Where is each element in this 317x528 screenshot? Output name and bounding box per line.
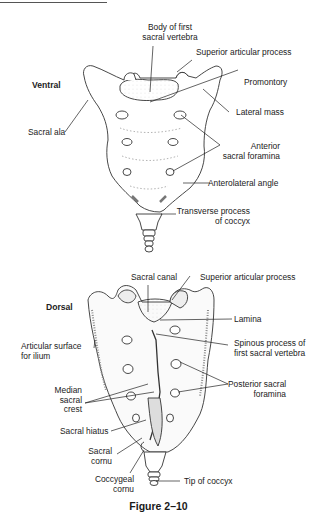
posterior-foramen — [122, 336, 132, 344]
ventral-coccyx — [136, 214, 162, 230]
label-line: first sacral vertebra — [234, 349, 305, 359]
label-ventral-superior-articular-process: Superior articular process — [196, 48, 291, 58]
coccyx-segment — [143, 230, 155, 236]
label-line: of coccyx — [176, 217, 250, 227]
posterior-foramen — [167, 414, 174, 422]
label-sacral-cornu: Sacral cornu — [80, 447, 112, 466]
posterior-foramen — [171, 389, 180, 397]
label-articular-surface-for-ilium: Articular surface for ilium — [21, 342, 82, 361]
label-line: cornu — [80, 457, 112, 467]
label-transverse-process-coccyx: Transverse process of coccyx — [176, 207, 250, 226]
label-lamina: Lamina — [234, 315, 261, 325]
label-anterolateral-angle: Anterolateral angle — [208, 179, 278, 189]
label-lateral-mass: Lateral mass — [236, 108, 284, 118]
label-dorsal-superior-articular-process: Superior articular process — [200, 273, 295, 283]
anterior-foramen — [168, 139, 178, 146]
dorsal-coccyx — [144, 452, 166, 472]
label-sacral-canal: Sacral canal — [131, 273, 177, 283]
label-sacral-hiatus: Sacral hiatus — [60, 427, 108, 437]
label-line: crest — [50, 405, 82, 415]
label-promontory: Promontory — [244, 78, 287, 88]
anterior-foramen — [116, 111, 128, 119]
posterior-foramen — [133, 414, 140, 422]
label-sacral-ala: Sacral ala — [28, 128, 65, 138]
anterior-foramen — [122, 139, 132, 146]
label-body-first-sacral-vertebra: Body of first sacral vertebra — [130, 23, 210, 42]
body-first-sacral-vertebra — [120, 79, 178, 100]
label-median-sacral-crest: Median sacral crest — [50, 386, 82, 415]
anterior-foramen — [166, 169, 174, 176]
anterior-foramen — [123, 169, 131, 176]
ventral-superior-articular-left — [124, 73, 136, 80]
label-tip-of-coccyx: Tip of coccyx — [184, 477, 233, 487]
coccyx-segment — [148, 472, 160, 477]
label-anterior-sacral-foramina: Anterior sacral foramina — [222, 142, 280, 161]
ventral-view-label: Ventral — [32, 81, 61, 91]
label-line: sacral foramina — [222, 152, 280, 162]
posterior-foramen — [123, 365, 133, 374]
label-posterior-sacral-foramina: Posterior sacral foramina — [228, 380, 286, 399]
dorsal-view-label: Dorsal — [46, 303, 73, 313]
label-spinous-process-first-sacral: Spinous process of first sacral vertebra — [234, 339, 305, 358]
label-line: sacral vertebra — [130, 33, 210, 43]
label-line: for ilium — [21, 352, 82, 362]
coccyx-segment — [145, 246, 153, 252]
posterior-foramen — [170, 326, 180, 334]
label-line: foramina — [228, 390, 286, 400]
posterior-foramen — [171, 360, 181, 369]
coccyx-segment — [145, 241, 153, 246]
coccyx-segment — [144, 236, 154, 241]
label-line: cornu — [88, 485, 134, 495]
label-coccygeal-cornu: Coccygeal cornu — [88, 475, 134, 494]
figure-caption: Figure 2–10 — [0, 500, 317, 512]
